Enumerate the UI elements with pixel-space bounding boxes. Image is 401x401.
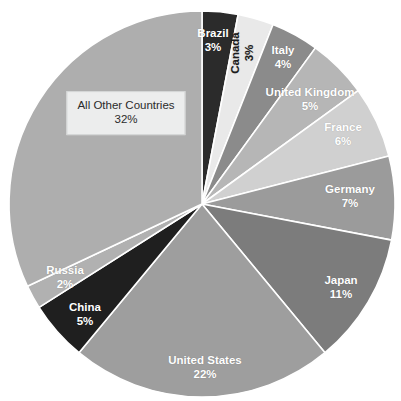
pie-chart-canvas (0, 0, 401, 401)
pie-label-percent: 32% (77, 113, 174, 127)
pie-callout-all-other-countries: All Other Countries32% (66, 91, 185, 135)
pie-label-name: All Other Countries (77, 99, 174, 111)
pie-slices-group (9, 11, 395, 397)
pie-chart-figure: Brazil3%Canada3%Italy4%United Kingdom5%F… (0, 0, 401, 401)
